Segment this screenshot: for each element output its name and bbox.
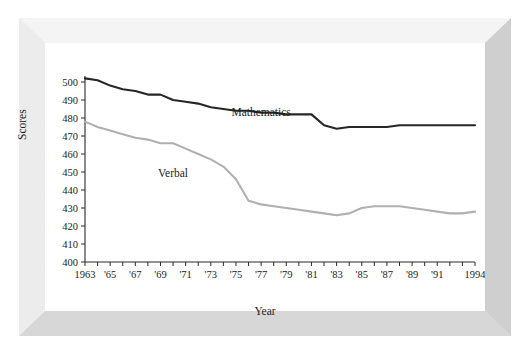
x-axis-ticks: 1963'65'67'69'71'73'75'77'79'81'83'85'87… [75,262,486,280]
series-label-verbal: Verbal [158,167,188,179]
x-tick-label: '73 [205,269,217,280]
y-tick-label: 440 [62,185,78,196]
y-tick-label: 500 [62,77,78,88]
x-tick-label: '75 [230,269,242,280]
x-tick-label: '71 [179,269,191,280]
x-tick-label: '89 [406,269,418,280]
x-tick-label: '85 [356,269,368,280]
series-line-mathematics [85,78,475,128]
y-tick-label: 460 [62,149,78,160]
y-tick-label: 400 [62,257,78,268]
x-tick-label: '81 [305,269,317,280]
y-axis-ticks: 400410420430440450460470480490500 [62,77,85,268]
y-tick-label: 490 [62,95,78,106]
y-tick-label: 480 [62,113,78,124]
chart-figure: 400410420430440450460470480490500 1963'6… [0,0,530,355]
x-tick-label: '87 [381,269,393,280]
y-tick-label: 430 [62,203,78,214]
x-tick-label: '77 [255,269,267,280]
line-chart: 400410420430440450460470480490500 1963'6… [45,43,485,311]
x-tick-label: '83 [330,269,342,280]
x-tick-label: 1994 [465,269,486,280]
frame-bevel-left [19,18,45,336]
x-tick-label: '65 [104,269,116,280]
y-tick-label: 450 [62,167,78,178]
x-tick-label: '79 [280,269,292,280]
y-tick-label: 420 [62,221,78,232]
y-tick-label: 470 [62,131,78,142]
y-axis-title: Scores [16,109,28,140]
frame-bevel-top [19,18,511,43]
x-tick-label: 1963 [75,269,96,280]
x-tick-label: '69 [154,269,166,280]
frame-bevel-right [485,18,511,336]
x-tick-label: '67 [129,269,141,280]
x-axis-title: Year [0,305,530,317]
y-tick-label: 410 [62,239,78,250]
series-label-mathematics: Mathematics [231,106,291,118]
x-tick-label: '91 [431,269,443,280]
series-line-verbal [85,122,475,216]
